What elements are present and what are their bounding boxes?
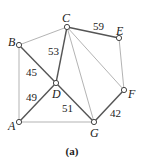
edge-weight-B-D: 45 bbox=[26, 66, 38, 78]
weighted-graph-diagram: 595345495142 ABCDEFG (a) bbox=[0, 0, 145, 160]
edge-weight-A-D: 49 bbox=[26, 91, 38, 103]
node-label-A: A bbox=[7, 119, 16, 133]
node-label-B: B bbox=[8, 35, 16, 49]
edge-weight-D-G: 51 bbox=[62, 102, 73, 114]
node-A bbox=[16, 119, 21, 124]
node-label-F: F bbox=[127, 87, 136, 101]
node-B bbox=[16, 42, 21, 47]
node-D bbox=[53, 80, 58, 85]
edge-weight-C-E: 59 bbox=[93, 20, 105, 32]
node-label-G: G bbox=[90, 126, 99, 140]
node-label-D: D bbox=[51, 87, 61, 101]
edge-weight-G-F: 42 bbox=[110, 107, 121, 119]
edge-B-C bbox=[19, 27, 67, 45]
edge-weight-C-D: 53 bbox=[48, 45, 60, 57]
figure-caption: (a) bbox=[66, 145, 79, 158]
node-label-E: E bbox=[115, 24, 124, 38]
node-label-C: C bbox=[62, 11, 71, 25]
edge-E-F bbox=[119, 38, 124, 90]
edge-A-D bbox=[19, 83, 56, 122]
node-G bbox=[91, 119, 96, 124]
node-F bbox=[121, 87, 126, 92]
node-C bbox=[64, 24, 69, 29]
